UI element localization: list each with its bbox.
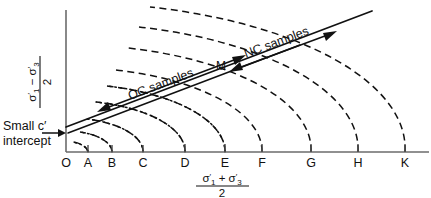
x-axis-numerator-text: σ′1 + σ′3: [202, 172, 242, 187]
point-m-label: M: [216, 59, 226, 73]
x-tick-label-b: B: [108, 156, 116, 170]
x-tick-label-o: O: [61, 156, 71, 170]
x-axis-label: σ′1 + σ′3 2: [196, 172, 249, 198]
x-tick-label-f: F: [258, 156, 266, 170]
x-axis-ticks: [88, 144, 405, 152]
nc-samples-label: NC samples: [242, 24, 311, 61]
x-tick-label-g: G: [306, 156, 316, 170]
callout-line-1: Small c′: [3, 119, 47, 133]
oc-inner-arc-4: [73, 142, 88, 152]
y-axis-numerator-text: σ′1 − σ′3: [26, 62, 41, 102]
mohr-coulomb-diagram: O A B C D E F G H K M OC samples NC samp…: [0, 0, 431, 198]
x-tick-labels: O A B C D E F G H K: [61, 156, 410, 170]
y-axis-denominator: 2: [41, 79, 53, 85]
y-axis-label: σ′1 − σ′3 2: [26, 56, 53, 108]
x-tick-label-a: A: [84, 156, 93, 170]
nc-arrow-head-right: [323, 31, 337, 41]
x-tick-label-k: K: [401, 156, 410, 170]
oc-arc-b: [80, 132, 112, 152]
y-axis-label-numerator: σ′1 − σ′3: [26, 62, 41, 102]
x-tick-label-c: C: [138, 156, 147, 170]
callout-arrow-head: [58, 129, 66, 137]
x-tick-label-d: D: [180, 156, 189, 170]
x-axis-denominator: 2: [219, 187, 225, 198]
x-axis-label-numerator: σ′1 + σ′3: [202, 172, 242, 187]
callout-line-2: intercept: [3, 134, 51, 148]
axes: [66, 10, 429, 152]
c-intercept-callout: Small c′ intercept: [3, 119, 51, 148]
diagram-canvas: O A B C D E F G H K M OC samples NC samp…: [0, 0, 431, 198]
x-tick-label-e: E: [221, 156, 229, 170]
x-tick-label-h: H: [353, 156, 362, 170]
